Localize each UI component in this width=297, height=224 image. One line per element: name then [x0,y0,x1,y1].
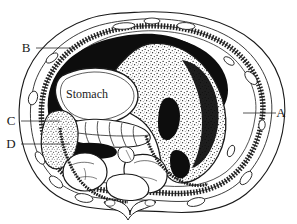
stomach-label: Stomach [66,87,108,101]
label-B: B [22,40,31,55]
vertebral-body [106,174,148,201]
label-C: C [7,113,16,128]
organ-name-labels: Stomach [66,87,108,101]
aorta [118,147,134,163]
anatomy-figure: A B C D Stomach [0,0,297,224]
cross-section-diagram: A B C D Stomach [0,0,297,224]
left-kidney [63,153,107,191]
label-D: D [6,136,15,151]
label-A: A [276,105,286,120]
